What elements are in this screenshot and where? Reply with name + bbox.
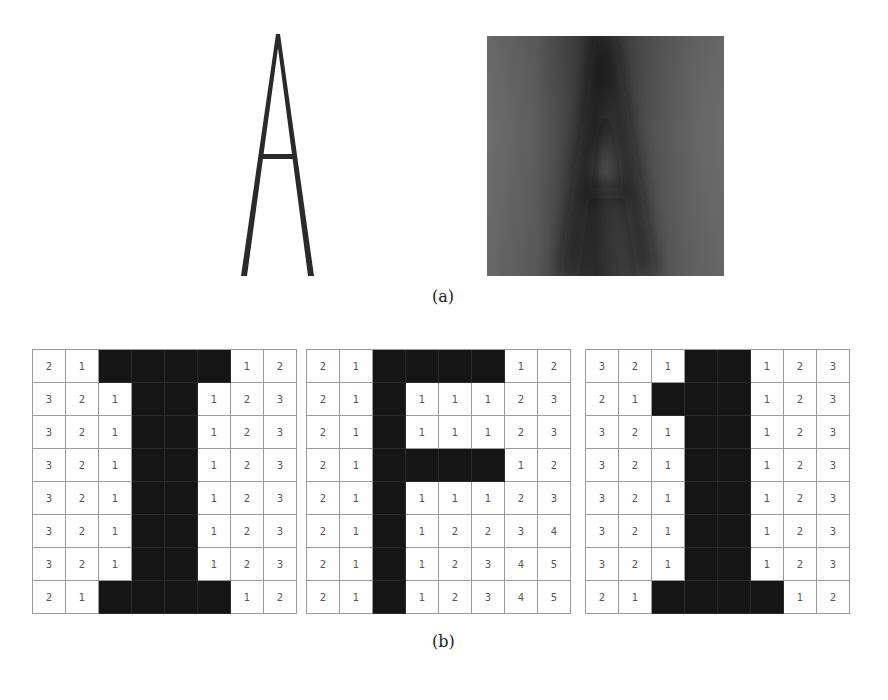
distance-cell: 1 [652, 482, 685, 515]
distance-cell: 3 [264, 482, 297, 515]
filled-cell [685, 416, 718, 449]
distance-cell: 1 [198, 515, 231, 548]
distance-cell: 5 [538, 581, 571, 614]
filled-cell [373, 515, 406, 548]
distance-cell: 1 [619, 581, 652, 614]
distance-cell: 2 [66, 482, 99, 515]
distance-cell: 2 [307, 581, 340, 614]
distance-cell: 2 [817, 581, 850, 614]
distance-cell: 4 [505, 581, 538, 614]
distance-cell: 1 [439, 416, 472, 449]
distance-cell: 2 [33, 581, 66, 614]
distance-cell: 3 [33, 482, 66, 515]
filled-cell [132, 449, 165, 482]
filled-cell [373, 482, 406, 515]
filled-cell [99, 581, 132, 614]
distance-cell: 1 [619, 383, 652, 416]
filled-cell [439, 350, 472, 383]
filled-cell [165, 449, 198, 482]
distance-cell: 1 [472, 416, 505, 449]
filled-cell [685, 350, 718, 383]
distance-cell: 2 [505, 482, 538, 515]
distance-cell: 3 [264, 515, 297, 548]
distance-cell: 3 [33, 449, 66, 482]
distance-cell: 2 [231, 416, 264, 449]
filled-cell [165, 581, 198, 614]
distance-cell: 1 [652, 416, 685, 449]
distance-cell: 3 [817, 383, 850, 416]
distance-cell: 2 [66, 416, 99, 449]
filled-cell [685, 449, 718, 482]
distance-cell: 3 [817, 416, 850, 449]
distance-cell: 5 [538, 548, 571, 581]
distance-cell: 3 [586, 482, 619, 515]
distance-cell: 3 [264, 383, 297, 416]
distance-cell: 1 [751, 416, 784, 449]
distance-cell: 2 [307, 482, 340, 515]
distance-cell: 2 [307, 350, 340, 383]
distance-cell: 1 [99, 515, 132, 548]
distance-cell: 2 [439, 548, 472, 581]
distance-cell: 1 [751, 449, 784, 482]
distance-cell: 2 [784, 482, 817, 515]
distance-cell: 1 [340, 383, 373, 416]
filled-cell [132, 416, 165, 449]
distance-cell: 1 [784, 581, 817, 614]
distance-cell: 1 [99, 482, 132, 515]
distance-cell: 1 [439, 383, 472, 416]
distance-cell: 2 [231, 449, 264, 482]
filled-cell [718, 515, 751, 548]
distance-cell: 1 [198, 482, 231, 515]
distance-cell: 3 [817, 482, 850, 515]
distance-cell: 3 [586, 548, 619, 581]
filled-cell [373, 449, 406, 482]
filled-cell [132, 383, 165, 416]
filled-cell [652, 581, 685, 614]
filled-cell [373, 350, 406, 383]
distance-cell: 2 [66, 383, 99, 416]
distance-cell: 1 [505, 449, 538, 482]
distance-cell: 2 [619, 482, 652, 515]
distance-cell: 3 [472, 581, 505, 614]
caption-b: (b) [432, 632, 455, 651]
distance-cell: 2 [231, 383, 264, 416]
distance-cell: 1 [406, 383, 439, 416]
distance-cell: 1 [652, 350, 685, 383]
filled-cell [165, 548, 198, 581]
distance-cell: 1 [406, 581, 439, 614]
distance-cell: 1 [340, 416, 373, 449]
distance-cell: 1 [340, 581, 373, 614]
distance-cell: 1 [340, 350, 373, 383]
distance-cell: 2 [66, 449, 99, 482]
distance-cell: 2 [619, 515, 652, 548]
grid-letter-i: 2112321123321123321123321123321123321123… [32, 349, 297, 614]
filled-cell [165, 350, 198, 383]
distance-cell: 1 [198, 416, 231, 449]
filled-cell [198, 581, 231, 614]
distance-cell: 4 [538, 515, 571, 548]
distance-cell: 2 [784, 449, 817, 482]
distance-cell: 3 [817, 548, 850, 581]
filled-cell [198, 350, 231, 383]
distance-cell: 1 [751, 482, 784, 515]
distance-cell: 3 [538, 416, 571, 449]
distance-cell: 1 [340, 449, 373, 482]
grid-letter-f: 2112211112321111232112211112321122342112… [306, 349, 571, 614]
distance-cell: 3 [264, 416, 297, 449]
distance-cell: 1 [439, 482, 472, 515]
distance-cell: 3 [538, 482, 571, 515]
filled-cell [373, 581, 406, 614]
filled-cell [472, 449, 505, 482]
distance-cell: 3 [817, 350, 850, 383]
filled-cell [685, 548, 718, 581]
distance-cell: 1 [99, 449, 132, 482]
distance-cell: 3 [817, 515, 850, 548]
distance-cell: 2 [439, 581, 472, 614]
caption-a: (a) [432, 287, 454, 306]
filled-cell [406, 350, 439, 383]
distance-cell: 1 [406, 548, 439, 581]
filled-cell [718, 383, 751, 416]
filled-cell [406, 449, 439, 482]
distance-cell: 3 [33, 383, 66, 416]
distance-cell: 2 [784, 548, 817, 581]
